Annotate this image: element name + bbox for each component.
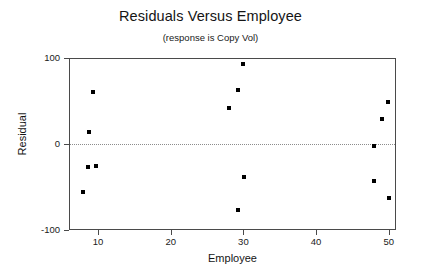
zero-reference-line <box>70 144 395 145</box>
data-point <box>372 144 376 148</box>
data-point <box>94 164 98 168</box>
x-tick-label: 50 <box>369 236 409 247</box>
data-point <box>227 106 231 110</box>
y-tick-label: 100 <box>18 52 60 63</box>
x-tick-mark <box>389 230 390 235</box>
data-point <box>87 130 91 134</box>
data-point <box>236 88 240 92</box>
x-tick-label: 10 <box>78 236 118 247</box>
x-axis-title: Employee <box>69 252 396 264</box>
data-point <box>372 179 376 183</box>
y-tick-mark <box>64 230 69 231</box>
y-axis-title: Residual <box>16 74 28 194</box>
data-point <box>387 196 391 200</box>
chart-title: Residuals Versus Employee <box>0 8 421 24</box>
y-tick-mark <box>64 58 69 59</box>
x-tick-mark <box>243 230 244 235</box>
residual-scatter-chart: Residuals Versus Employee (response is C… <box>0 0 421 278</box>
data-point <box>81 190 85 194</box>
data-point <box>86 165 90 169</box>
y-tick-mark <box>64 144 69 145</box>
x-tick-label: 30 <box>223 236 263 247</box>
x-tick-mark <box>171 230 172 235</box>
data-point <box>241 62 245 66</box>
y-tick-label: -100 <box>18 224 60 235</box>
x-tick-mark <box>98 230 99 235</box>
data-point <box>242 175 246 179</box>
data-point <box>91 90 95 94</box>
chart-subtitle: (response is Copy Vol) <box>0 32 421 43</box>
x-tick-label: 40 <box>296 236 336 247</box>
data-point <box>236 208 240 212</box>
x-tick-mark <box>316 230 317 235</box>
data-point <box>380 117 384 121</box>
x-tick-label: 20 <box>151 236 191 247</box>
data-point <box>386 100 390 104</box>
